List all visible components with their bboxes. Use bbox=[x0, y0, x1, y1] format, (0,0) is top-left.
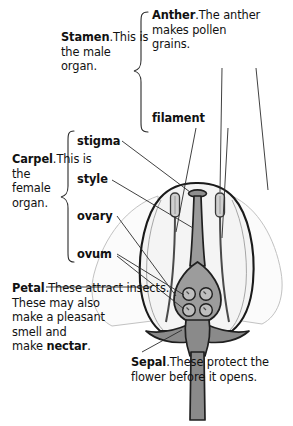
leader-anther-b bbox=[256, 68, 268, 190]
flower-diagram-page: Stamen.This is the male organ. Anther.Th… bbox=[0, 0, 293, 426]
label-petal-body-post: . bbox=[87, 339, 91, 353]
label-anther-term: Anther bbox=[152, 8, 195, 22]
receptacle-shape bbox=[185, 320, 210, 356]
leader-anther-a bbox=[220, 68, 222, 192]
label-ovum: ovum bbox=[77, 247, 112, 262]
label-style: style bbox=[77, 172, 108, 187]
label-stamen: Stamen.This is the male organ. bbox=[61, 30, 148, 74]
label-ovary: ovary bbox=[77, 209, 112, 224]
label-petal-nectar: nectar bbox=[46, 339, 87, 353]
label-anther: Anther.The anther makes pollen grains. bbox=[152, 8, 260, 52]
label-carpel-term: Carpel bbox=[12, 152, 53, 166]
label-sepal-term: Sepal bbox=[131, 355, 166, 369]
label-petal: Petal.These attract insects. These may a… bbox=[12, 281, 169, 354]
label-petal-term: Petal bbox=[12, 281, 45, 295]
leader-stigma bbox=[122, 141, 190, 192]
label-stamen-term: Stamen bbox=[61, 30, 109, 44]
label-sepal: Sepal.These protect the flower before it… bbox=[131, 355, 269, 384]
label-filament: filament bbox=[152, 111, 205, 126]
label-stigma: stigma bbox=[77, 134, 120, 149]
